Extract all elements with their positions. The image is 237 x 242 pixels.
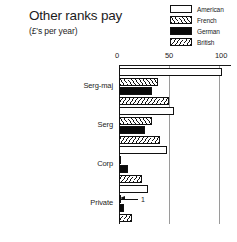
bar-french-serg <box>119 117 152 125</box>
bar-french-corp <box>119 156 121 164</box>
bar-group-serg <box>119 107 229 146</box>
legend-label: British <box>197 39 214 46</box>
bar-german-private <box>119 204 124 212</box>
bar-group-private <box>119 185 229 224</box>
bar-british-serg <box>119 136 160 144</box>
legend: AmericanFrenchGermanBritish <box>170 4 224 48</box>
bar-american-serg-maj <box>119 68 222 76</box>
legend-label: German <box>197 28 220 35</box>
bar-group-serg-maj <box>119 68 229 107</box>
annotation-private-french: 1 <box>121 195 145 204</box>
bar-american-serg <box>119 107 174 115</box>
legend-swatch-icon <box>170 27 192 35</box>
category-label-serg-maj: Serg-maj <box>55 81 113 90</box>
bar-american-private <box>119 185 148 193</box>
legend-item-german: German <box>170 26 224 36</box>
legend-item-american: American <box>170 4 224 14</box>
title-block: Other ranks pay (£'s per year) <box>29 8 122 36</box>
page-title: Other ranks pay <box>29 8 122 24</box>
bar-american-corp <box>119 146 167 154</box>
x-tick-label: 50 <box>165 51 173 60</box>
bar-german-corp <box>119 165 128 173</box>
bar-british-corp <box>119 175 142 183</box>
bar-group-corp <box>119 146 229 185</box>
category-label-private: Private <box>55 198 113 207</box>
legend-label: French <box>197 17 217 24</box>
legend-swatch-icon <box>170 38 192 46</box>
legend-item-french: French <box>170 15 224 25</box>
bar-british-private <box>119 214 132 222</box>
bar-french-serg-maj <box>119 78 158 86</box>
bar-german-serg <box>119 126 145 134</box>
annotation-leader-line <box>121 199 138 200</box>
bar-german-serg-maj <box>119 87 152 95</box>
x-tick-label: 100 <box>215 51 227 60</box>
category-label-serg: Serg <box>55 120 113 129</box>
legend-label: American <box>197 6 224 13</box>
bar-british-serg-maj <box>119 97 169 105</box>
legend-swatch-icon <box>170 5 192 13</box>
legend-swatch-icon <box>170 16 192 24</box>
annotation-value: 1 <box>141 196 145 203</box>
category-label-corp: Corp <box>55 159 113 168</box>
x-tick-label: 0 <box>115 51 119 60</box>
plot-area: 1 <box>119 66 229 224</box>
chart-container: Other ranks pay (£'s per year) AmericanF… <box>0 0 237 242</box>
legend-item-british: British <box>170 37 224 47</box>
arrow-left-icon <box>120 196 125 200</box>
chart-subtitle: (£'s per year) <box>29 26 122 36</box>
